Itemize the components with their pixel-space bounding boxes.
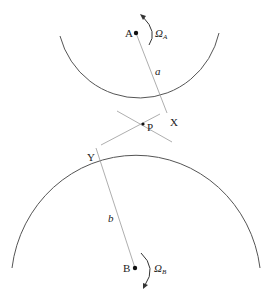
center-a-dot	[134, 31, 138, 35]
point-p-dot	[141, 122, 144, 125]
label-y: Y	[87, 151, 95, 163]
circle-b-arc	[12, 155, 260, 268]
tangent-line-1	[117, 111, 172, 142]
label-omega-b: ΩB	[154, 262, 167, 276]
diagram-canvas: A ΩA a X P Y b B ΩB	[0, 0, 275, 298]
label-radius-a: a	[155, 65, 161, 77]
label-omega-a: ΩA	[155, 27, 168, 41]
label-p: P	[147, 121, 153, 133]
radius-b-line	[96, 148, 135, 268]
rotation-arrow-a	[143, 17, 152, 45]
label-x: X	[170, 116, 178, 128]
label-b: B	[123, 262, 130, 274]
radius-a-line	[136, 33, 167, 113]
label-a: A	[125, 27, 133, 39]
center-b-dot	[133, 266, 137, 270]
label-radius-b: b	[108, 212, 114, 224]
rotation-arrow-b	[141, 253, 150, 285]
